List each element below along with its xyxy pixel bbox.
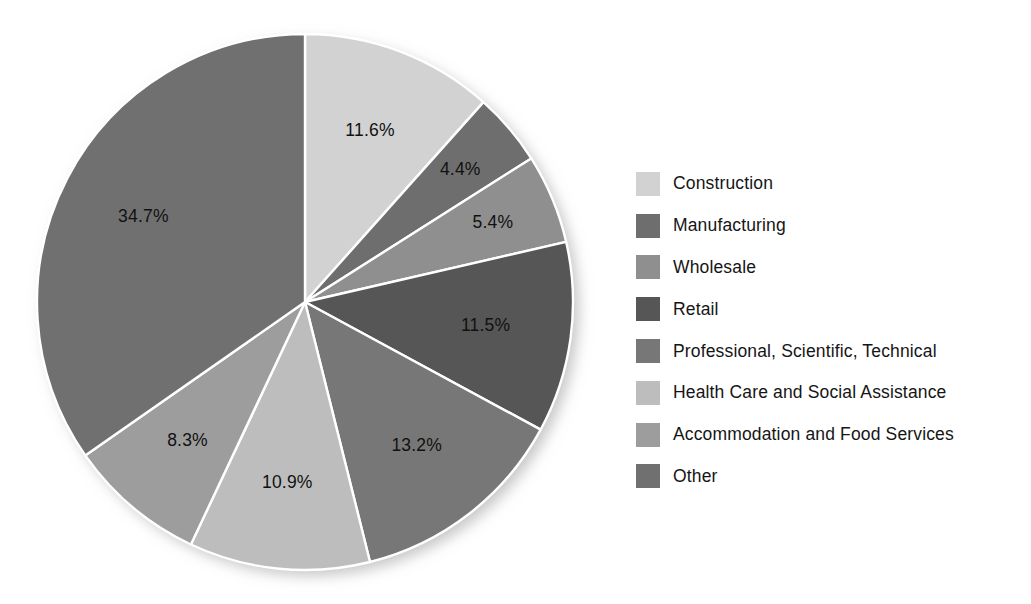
legend-item[interactable]: Other <box>636 456 1016 498</box>
legend-item-label: Accommodation and Food Services <box>673 424 954 445</box>
legend-item-label: Manufacturing <box>673 215 786 236</box>
legend-item-label: Construction <box>673 173 773 194</box>
pie-slice-value-label: 8.3% <box>167 430 208 450</box>
legend-item-label: Health Care and Social Assistance <box>673 382 946 403</box>
pie-slice-value-label: 5.4% <box>473 212 514 232</box>
legend-color-swatch <box>636 381 660 405</box>
pie-slice-value-label: 4.4% <box>440 159 481 179</box>
legend-color-swatch <box>636 339 660 363</box>
pie-slice-value-label: 11.6% <box>345 120 394 140</box>
pie-slice-value-label: 34.7% <box>118 206 169 226</box>
chart-legend: ConstructionManufacturingWholesaleRetail… <box>636 163 1016 497</box>
legend-item[interactable]: Retail <box>636 288 1016 330</box>
legend-item-label: Wholesale <box>673 257 756 278</box>
legend-item[interactable]: Construction <box>636 163 1016 205</box>
legend-item[interactable]: Wholesale <box>636 247 1016 289</box>
legend-item-label: Retail <box>673 299 719 320</box>
legend-item-label: Professional, Scientific, Technical <box>673 341 937 362</box>
legend-color-swatch <box>636 214 660 238</box>
legend-item[interactable]: Health Care and Social Assistance <box>636 372 1016 414</box>
legend-color-swatch <box>636 423 660 447</box>
pie-slice-value-label: 13.2% <box>391 435 442 455</box>
legend-color-swatch <box>636 255 660 279</box>
pie-plot-area: 11.6%4.4%5.4%11.5%13.2%10.9%8.3%34.7% <box>0 0 620 604</box>
pie-slice-value-label: 11.5% <box>461 315 510 335</box>
legend-item-label: Other <box>673 466 718 487</box>
pie-slice-value-label: 10.9% <box>262 472 313 492</box>
legend-color-swatch <box>636 464 660 488</box>
pie-chart-figure: 11.6%4.4%5.4%11.5%13.2%10.9%8.3%34.7% Co… <box>0 0 1031 604</box>
legend-item[interactable]: Accommodation and Food Services <box>636 414 1016 456</box>
legend-color-swatch <box>636 297 660 321</box>
legend-item[interactable]: Manufacturing <box>636 205 1016 247</box>
legend-item[interactable]: Professional, Scientific, Technical <box>636 330 1016 372</box>
legend-color-swatch <box>636 172 660 196</box>
pie-svg: 11.6%4.4%5.4%11.5%13.2%10.9%8.3%34.7% <box>0 0 620 604</box>
